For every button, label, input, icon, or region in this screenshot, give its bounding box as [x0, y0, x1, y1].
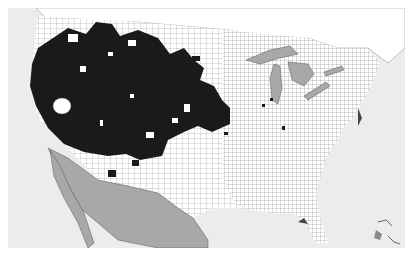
us-county-map	[8, 8, 405, 248]
black-county	[132, 160, 139, 166]
black-county	[108, 170, 116, 177]
black-county	[282, 126, 285, 130]
white-county-nv	[53, 98, 71, 114]
black-county	[262, 104, 265, 107]
black-county	[270, 98, 273, 101]
black-county	[224, 132, 228, 135]
black-county	[192, 56, 200, 61]
